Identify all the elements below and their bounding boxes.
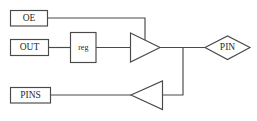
node-pin-label: PIN xyxy=(220,42,235,52)
block-diagram-canvas: OE OUT reg PINS PIN xyxy=(0,0,257,121)
input-buffer-triangle-icon[interactable] xyxy=(131,81,163,110)
wire-pin-feedback-tap xyxy=(163,48,184,96)
node-oe-label: OE xyxy=(23,13,36,23)
node-pins-label: PINS xyxy=(20,90,41,100)
node-reg-label: reg xyxy=(78,43,88,52)
node-out-label: OUT xyxy=(20,42,40,52)
diagram-svg: OE OUT reg PINS PIN xyxy=(0,0,257,121)
